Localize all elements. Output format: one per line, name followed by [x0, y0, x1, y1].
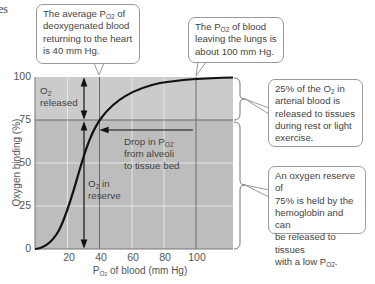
x-axis-label: PO2 of blood (mm Hg) — [60, 265, 220, 276]
o2-reserve-label: O2 in reserve — [88, 178, 121, 202]
callout-deoxygenated-blood: The average PO2 of deoxygenated blood re… — [36, 4, 140, 64]
callout-tail-released — [245, 99, 269, 114]
x-tick-80: 80 — [150, 251, 180, 263]
x-tick-60: 60 — [118, 251, 148, 263]
y-tick-100: 100 — [9, 70, 31, 82]
callout-tail-reserve — [245, 185, 269, 197]
drop-label: Drop in PO2 from alveoli to tissue bed — [124, 136, 180, 172]
callout-o2-released: 25% of the O2 in arterial blood is relea… — [268, 79, 363, 147]
y-tick-0: 0 — [9, 242, 31, 254]
x-tick-100: 100 — [182, 251, 212, 263]
x-tick-40: 40 — [86, 251, 116, 263]
callout-lungs: The PO2 of blood leaving the lungs is ab… — [188, 17, 284, 63]
o2-released-label: O2 released — [40, 85, 78, 109]
callout-tail-deoxygenated — [94, 63, 104, 75]
callout-tail-lungs — [196, 62, 206, 76]
x-tick-20: 20 — [54, 251, 84, 263]
y-axis-label: Oxygen binding (%) — [11, 113, 22, 213]
upper-brace — [234, 78, 245, 120]
lower-brace — [234, 122, 245, 249]
callout-o2-reserve: An oxygen reserve of 75% is held by the … — [268, 166, 366, 234]
